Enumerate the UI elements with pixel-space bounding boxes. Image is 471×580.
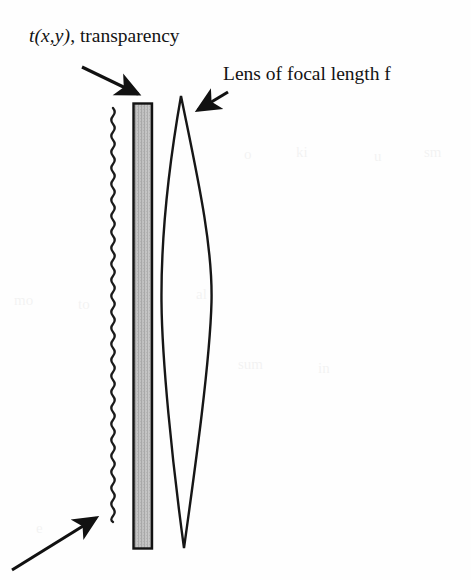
diagram-canvas <box>0 0 471 580</box>
optical-diagram-figure: mo to al o ki u sm sum in e <box>0 0 471 580</box>
transparency-plate <box>134 104 153 549</box>
transparency-word: transparency <box>80 25 180 46</box>
biconvex-lens <box>161 96 211 548</box>
arrow-to-lens <box>198 92 228 110</box>
transparency-label: t(x,y), transparency <box>29 26 180 46</box>
wavy-wavefront-line <box>111 108 114 522</box>
transparency-symbol: t(x,y) <box>29 25 70 46</box>
lens-label: Lens of focal length f <box>223 64 391 84</box>
transparency-separator: , <box>70 25 80 46</box>
arrow-to-wavefront <box>12 518 96 570</box>
arrow-to-transparency <box>82 67 138 94</box>
